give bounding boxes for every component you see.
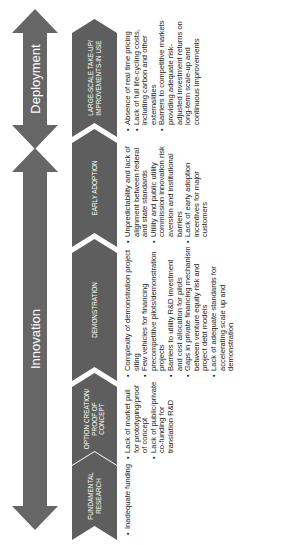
innovation-deployment-diagram: Innovation Deployment FUNDAMENTAL RESEAR… (0, 0, 297, 545)
barrier-item: Lack of early adoption incentives for ma… (184, 135, 210, 243)
stage-chevron-fundamental-research: FUNDAMENTAL RESEARCH (72, 452, 117, 540)
deployment-phase-label: Deployment (12, 9, 58, 149)
stage-label: DEMONSTRATION (72, 253, 117, 367)
stage-chevron-option-creation: OPTION CREATION/ PROOF OF CONCEPT (72, 373, 117, 465)
barriers-option-creation: Lack of market pull for prototyping/proo… (124, 381, 176, 459)
stage-label: OPTION CREATION/ PROOF OF CONCEPT (72, 387, 117, 451)
innovation-phase-arrow: Innovation (12, 148, 58, 530)
stage-label: LARGE-SCALE TAKE-UP/ IMPROVEMENTS-IN USE (72, 33, 117, 123)
stage-label: FUNDAMENTAL RESEARCH (72, 466, 117, 526)
stage-chevron-early-adoption: EARLY ADOPTION (72, 129, 117, 247)
barrier-item: Lack of public/private co-funding for tr… (150, 381, 176, 459)
barrier-item: Barriers to competitive markets providin… (158, 19, 201, 131)
barrier-item: Barriers to utility R&D investment and c… (167, 245, 184, 377)
barrier-item: Gaps in private financing mechanism betw… (184, 245, 210, 377)
barrier-item: Complexity of demonstration project siti… (124, 245, 141, 377)
stage-chevron-large-scale-take-up: LARGE-SCALE TAKE-UP/ IMPROVEMENTS-IN USE (72, 19, 117, 137)
barriers-fundamental-research: Inadequate funding (124, 460, 133, 535)
barrier-item: Inadequate funding (124, 460, 133, 535)
barrier-item: Lack of adequate standards for accelerat… (210, 245, 236, 377)
innovation-phase-label: Innovation (12, 148, 58, 530)
barriers-early-adoption: Unpredictability and lack of alignment b… (124, 135, 210, 243)
barrier-item: Few vehicles for financing precompetitiv… (141, 245, 167, 377)
barrier-item: Lack of market pull for prototyping/proo… (124, 381, 150, 459)
barrier-item: Lack of full life-cycling costs, includi… (133, 19, 159, 131)
barrier-item: Unpredictability and lack of alignment b… (124, 135, 150, 243)
stage-label: EARLY ADOPTION (72, 143, 117, 233)
barriers-demonstration: Complexity of demonstration project siti… (124, 245, 236, 377)
barrier-item: Utility and public utility commission in… (150, 135, 184, 243)
barriers-large-scale-take-up: Absence of real time pricing Lack of ful… (124, 19, 201, 131)
deployment-phase-arrow: Deployment (12, 9, 58, 149)
stage-chevron-demonstration: DEMONSTRATION (72, 239, 117, 381)
